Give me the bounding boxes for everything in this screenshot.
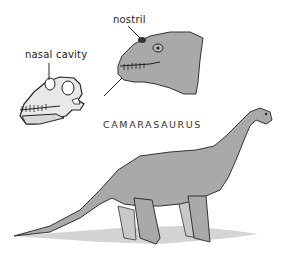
skull-drawing [20,63,84,124]
head-drawing [104,26,203,96]
nasal-cavity-label: nasal cavity [25,49,87,60]
figure-title: CAMARASAURUS [103,119,202,130]
nostril-label: nostril [113,14,146,25]
